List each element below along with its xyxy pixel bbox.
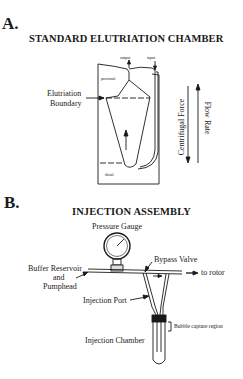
label-bubble-capture: Bubble capture region [174,323,223,329]
label-injection-port: Injection Port [83,296,127,305]
label-injection-chamber: Injection Chamber [85,336,145,345]
label-flow-rate: Flow Rate [203,101,212,134]
label-pumphead: Pumphead [43,282,77,291]
panel-b-title: INJECTION ASSEMBLY [72,206,191,217]
label-to-rotor: to rotor [201,268,225,277]
label-centrifugal-force: Centrifugal Force [177,99,186,156]
label-input: input [147,55,155,60]
label-bypass-valve: Bypass Valve [154,255,197,264]
panel-b-letter: B. [4,193,20,213]
label-distal: distal [105,172,114,177]
label-output: output [120,55,130,60]
label-elutriation: Elutriation [47,89,81,98]
label-buffer-and: and [53,273,65,282]
label-boundary: Boundary [50,99,82,108]
label-buffer-reservoir: Buffer Reservoir [28,264,82,273]
label-proximal: proximal [101,76,115,81]
label-pressure-gauge: Pressure Gauge [92,222,142,231]
